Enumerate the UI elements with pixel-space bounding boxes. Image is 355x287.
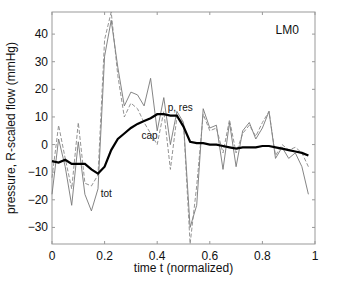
annotation-cap: cap [141,130,158,141]
x-tick-label: 0.2 [96,249,113,263]
y-axis-label: pressure, R-scaled flow (mmHg) [4,42,18,214]
x-tick-label: 0 [49,249,56,263]
y-tick-label: 40 [35,27,49,41]
x-axis-label: time t (normalized) [134,261,233,275]
chart: 00.20.40.60.81−30−20−10010203040 LM0p, r… [0,0,355,287]
y-tick-label: −20 [28,193,49,207]
annotation-p-res: p, res [168,102,193,113]
x-tick-label: 0.8 [254,249,271,263]
annotation-tot: tot [101,188,112,199]
y-tick-label: 30 [35,55,49,69]
y-tick-label: 10 [35,110,49,124]
annotation-lm0: LM0 [276,23,300,37]
y-tick-label: −10 [28,165,49,179]
x-tick-label: 1 [312,249,319,263]
y-tick-label: 0 [41,138,48,152]
y-tick-label: 20 [35,82,49,96]
y-tick-label: −30 [28,220,49,234]
